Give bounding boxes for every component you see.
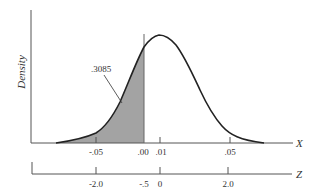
area-annotation: .3085 [91,64,112,74]
shaded-area [56,47,144,143]
z-tick-label: -2.0 [89,179,104,189]
z-tick-label: 0 [158,179,163,189]
x-tick-label: .01 [155,147,166,157]
z-tick-label: 2.0 [222,179,234,189]
y-axis-label: Density [15,55,27,90]
z-axis-label: Z [296,168,303,180]
annotation-leader-line [104,75,122,103]
x-tick-label: .05 [224,147,236,157]
x-axis-label: X [295,137,304,149]
density-curve [56,35,264,143]
x-tick-label: .00 [137,147,149,157]
z-tick-label: -.5 [139,179,149,189]
normal-distribution-chart: -.05 .00 .01 .05 X -2.0 -.5 0 2.0 Z Dens… [0,0,317,196]
x-tick-label: -.05 [89,147,104,157]
